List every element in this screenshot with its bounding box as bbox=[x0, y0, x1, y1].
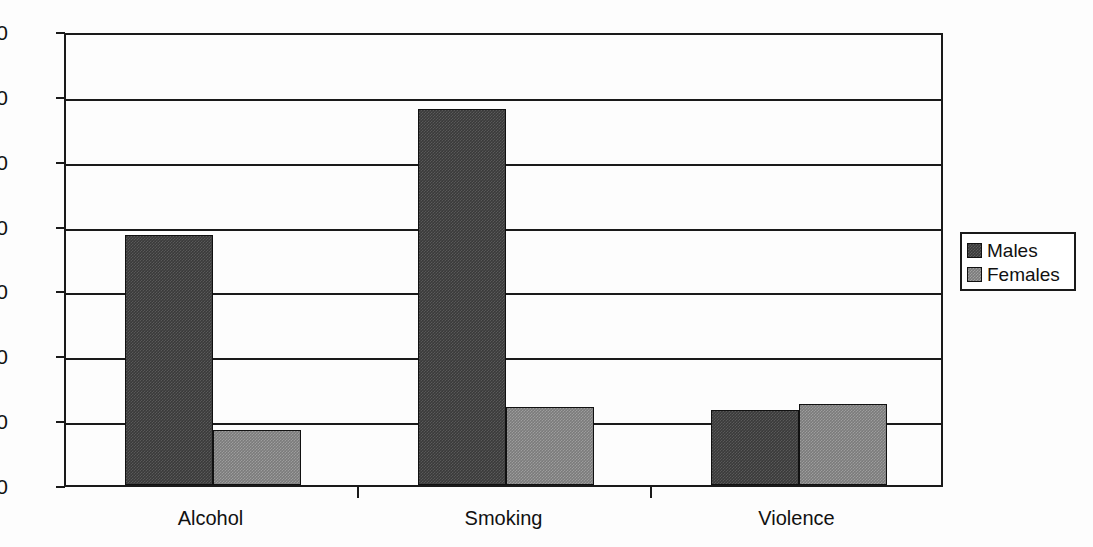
chart-legend: MalesFemales bbox=[960, 232, 1076, 291]
bar-violence-males[interactable] bbox=[711, 410, 799, 485]
legend-item-males[interactable]: Males bbox=[967, 238, 1069, 262]
x-axis-category-separator bbox=[650, 487, 652, 498]
bar-smoking-females[interactable] bbox=[506, 407, 594, 485]
bar-alcohol-males[interactable] bbox=[125, 235, 213, 485]
legend-item-females[interactable]: Females bbox=[967, 262, 1069, 286]
x-axis-category-separator bbox=[357, 487, 359, 498]
y-axis-tick-label: 70 bbox=[0, 22, 8, 43]
y-axis-tick-label: 40 bbox=[0, 217, 8, 238]
x-axis-label-alcohol: Alcohol bbox=[178, 508, 244, 528]
y-axis-tick-label: 0 bbox=[0, 476, 8, 497]
x-axis-label-smoking: Smoking bbox=[465, 508, 543, 528]
gridline bbox=[66, 99, 941, 101]
y-axis-tick-label: 50 bbox=[0, 152, 8, 173]
y-axis-tick-label: 60 bbox=[0, 87, 8, 108]
bar-alcohol-females[interactable] bbox=[213, 430, 301, 485]
bar-smoking-males[interactable] bbox=[418, 109, 506, 485]
legend-swatch-icon-females bbox=[967, 267, 982, 282]
bar-chart: 010203040506070 AlcoholSmokingViolence M… bbox=[0, 0, 1093, 547]
bar-violence-females[interactable] bbox=[799, 404, 887, 485]
y-axis-tick-label: 20 bbox=[0, 346, 8, 367]
legend-label: Females bbox=[987, 265, 1060, 284]
legend-swatch-icon-males bbox=[967, 243, 982, 258]
x-axis-label-violence: Violence bbox=[758, 508, 834, 528]
plot-area bbox=[64, 33, 943, 487]
y-axis-tick-label: 30 bbox=[0, 281, 8, 302]
legend-label: Males bbox=[987, 241, 1038, 260]
y-axis-tick-label: 10 bbox=[0, 411, 8, 432]
